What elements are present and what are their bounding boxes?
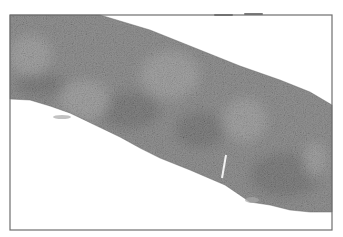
micrograph-figure — [0, 0, 343, 237]
fragment-artifact — [53, 115, 71, 119]
micrograph-canvas — [0, 0, 343, 237]
fragment-artifact — [245, 197, 259, 203]
